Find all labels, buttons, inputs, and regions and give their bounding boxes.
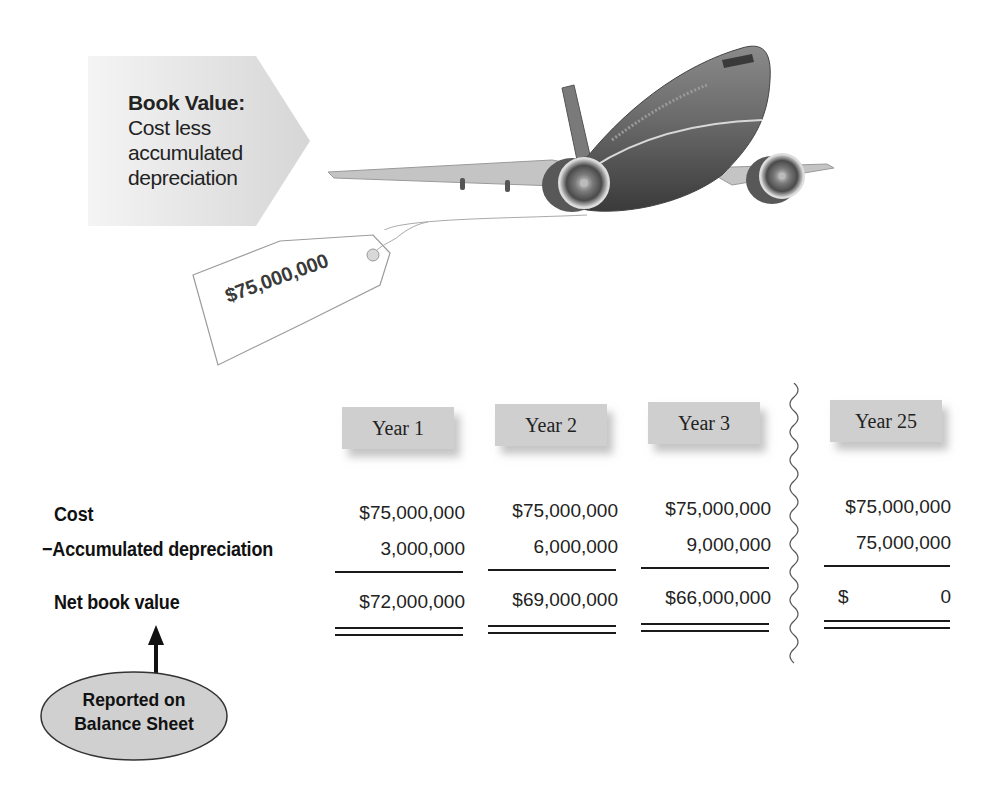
total-double-rule-year-3	[641, 623, 769, 625]
subtotal-rule-year-3	[641, 567, 769, 569]
row-label-net-book-value: Net book value	[54, 591, 180, 614]
row-label-accumulated-depreciation: −Accumulated depreciation	[42, 538, 273, 561]
cell-cost-year-25: $75,000,000	[845, 496, 951, 518]
subtotal-rule-year-25	[824, 565, 950, 567]
cell-accum-dep-year-2: 6,000,000	[533, 536, 618, 558]
book-value-callout: Book Value: Cost less accumulated deprec…	[88, 56, 310, 226]
callout-line: Cost less	[128, 115, 245, 140]
row-label-text: Net book value	[54, 591, 180, 613]
total-double-rule-year-2	[488, 625, 616, 627]
note-line: Reported on	[47, 688, 222, 712]
row-label-text: Cost	[54, 503, 93, 525]
cell-accum-dep-year-25: 75,000,000	[856, 532, 951, 554]
cell-nbv-year-2: $69,000,000	[512, 589, 618, 611]
total-double-rule-year-3	[641, 630, 769, 632]
total-double-rule-year-1	[335, 627, 463, 629]
cell-nbv-year-3: $66,000,000	[665, 587, 771, 609]
column-header-year-3: Year 3	[648, 402, 760, 444]
callout-line: accumulated	[128, 140, 245, 165]
cell-cost-year-1: $75,000,000	[359, 502, 465, 524]
balance-sheet-note-text: Reported on Balance Sheet	[47, 688, 222, 736]
cell-accum-dep-year-3: 9,000,000	[686, 534, 771, 556]
subtotal-rule-year-1	[335, 571, 463, 573]
column-header-year-2: Year 2	[495, 404, 607, 446]
row-label-text: Accumulated depreciation	[52, 538, 273, 560]
row-label-cost: Cost	[54, 503, 93, 526]
minus-sign: −	[42, 538, 52, 560]
callout-text: Book Value: Cost less accumulated deprec…	[128, 90, 245, 190]
cell-nbv-year-25: 0	[940, 586, 951, 608]
total-double-rule-year-2	[488, 632, 616, 634]
cell-nbv-year-25-currency: $	[838, 586, 849, 608]
column-header-year-25: Year 25	[830, 400, 942, 442]
column-header-year-1: Year 1	[342, 407, 454, 449]
cell-cost-year-3: $75,000,000	[665, 498, 771, 520]
total-double-rule-year-25	[824, 627, 950, 629]
arrow-up-icon	[146, 625, 166, 675]
cell-cost-year-2: $75,000,000	[512, 500, 618, 522]
price-tag	[188, 215, 428, 375]
total-double-rule-year-1	[335, 634, 463, 636]
period-break-wavy-line	[786, 383, 810, 673]
subtotal-rule-year-2	[488, 569, 616, 571]
note-line: Balance Sheet	[47, 712, 222, 736]
cell-accum-dep-year-1: 3,000,000	[380, 538, 465, 560]
callout-line: depreciation	[128, 165, 245, 190]
cell-nbv-year-1: $72,000,000	[359, 591, 465, 613]
airplane-icon	[322, 40, 892, 230]
total-double-rule-year-25	[824, 620, 950, 622]
callout-title: Book Value:	[128, 90, 245, 115]
